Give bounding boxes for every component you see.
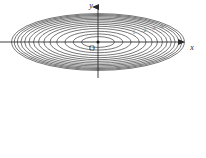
- contour-level-label: 1: [132, 28, 135, 35]
- contour-level-label: 2: [143, 26, 146, 33]
- contour-plot-canvas: x y O 1234: [0, 0, 206, 158]
- y-axis-label: y: [88, 1, 93, 10]
- x-axis-label: x: [189, 43, 194, 52]
- contour-level-label: 3: [152, 24, 155, 31]
- contour-plot-figure: x y O 1234: [0, 0, 206, 158]
- origin-point: [97, 41, 100, 44]
- origin-label: O: [89, 44, 95, 53]
